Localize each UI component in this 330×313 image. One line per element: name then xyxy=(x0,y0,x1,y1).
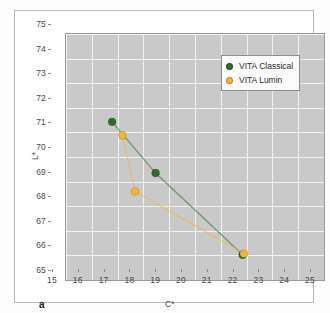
y-axis-tick-label: 66 xyxy=(20,240,46,250)
x-axis-tick-label: 21 xyxy=(194,275,220,285)
y-axis-tick-mark xyxy=(48,98,51,99)
legend-swatch-icon xyxy=(226,77,233,84)
x-axis-tick-label: 16 xyxy=(65,275,91,285)
x-axis-tick-mark xyxy=(258,269,259,272)
y-axis-tick-label: 70 xyxy=(20,142,46,152)
x-axis-tick-mark xyxy=(284,269,285,272)
y-axis-tick-label: 72 xyxy=(20,93,46,103)
x-axis-tick-mark xyxy=(129,269,130,272)
x-axis-tick-label: 19 xyxy=(142,275,168,285)
y-axis-tick-mark xyxy=(48,221,51,222)
data-point[interactable] xyxy=(240,250,248,258)
figure-panel-a: 6566676869707172737475151617181920212223… xyxy=(0,0,330,313)
series-line xyxy=(112,122,243,255)
data-point[interactable] xyxy=(118,131,126,139)
x-axis-tick-label: 17 xyxy=(91,275,117,285)
data-point[interactable] xyxy=(108,118,116,126)
y-axis-tick-label: 67 xyxy=(20,216,46,226)
x-axis-tick-label: 20 xyxy=(168,275,194,285)
x-axis-tick-mark xyxy=(104,269,105,272)
figure-frame: 6566676869707172737475151617181920212223… xyxy=(14,10,314,303)
legend: VITA Classical VITA Lumin xyxy=(221,55,300,91)
data-point[interactable] xyxy=(131,187,139,195)
y-axis-tick-label: 65 xyxy=(20,265,46,275)
x-axis-tick-mark xyxy=(181,269,182,272)
y-axis-tick-label: 68 xyxy=(20,191,46,201)
y-axis-tick-mark xyxy=(48,49,51,50)
legend-swatch-icon xyxy=(226,63,233,70)
y-axis-tick-mark xyxy=(48,245,51,246)
y-axis-tick-mark xyxy=(48,122,51,123)
x-axis-title: C* xyxy=(165,299,174,309)
legend-item-vita-lumin[interactable]: VITA Lumin xyxy=(226,73,293,87)
x-axis-tick-mark xyxy=(52,269,53,272)
y-axis-tick-mark xyxy=(48,73,51,74)
y-axis-tick-mark xyxy=(48,147,51,148)
y-axis-tick-mark xyxy=(48,196,51,197)
y-axis-tick-label: 75 xyxy=(20,19,46,29)
series-line xyxy=(122,135,244,253)
legend-label: VITA Lumin xyxy=(239,75,282,85)
y-axis-tick-label: 73 xyxy=(20,68,46,78)
y-axis-tick-mark xyxy=(48,270,51,271)
gridline-vertical xyxy=(324,34,325,280)
x-axis-tick-label: 23 xyxy=(245,275,271,285)
x-axis-tick-label: 24 xyxy=(271,275,297,285)
y-axis-tick-label: 74 xyxy=(20,44,46,54)
y-axis-tick-mark xyxy=(48,172,51,173)
x-axis-tick-label: 18 xyxy=(116,275,142,285)
legend-item-vita-classical[interactable]: VITA Classical xyxy=(226,59,293,73)
x-axis-tick-mark xyxy=(207,269,208,272)
y-axis-title: L* xyxy=(30,152,40,160)
x-axis-tick-mark xyxy=(78,269,79,272)
data-point[interactable] xyxy=(152,169,160,177)
x-axis-tick-label: 25 xyxy=(297,275,323,285)
x-axis-tick-mark xyxy=(233,269,234,272)
y-axis-tick-label: 71 xyxy=(20,117,46,127)
legend-label: VITA Classical xyxy=(239,61,293,71)
x-axis-tick-label: 22 xyxy=(220,275,246,285)
x-axis-tick-label: 15 xyxy=(39,275,65,285)
panel-label: a xyxy=(39,299,45,310)
x-axis-tick-mark xyxy=(310,269,311,272)
y-axis-tick-label: 69 xyxy=(20,167,46,177)
x-axis-tick-mark xyxy=(155,269,156,272)
y-axis-tick-mark xyxy=(48,24,51,25)
